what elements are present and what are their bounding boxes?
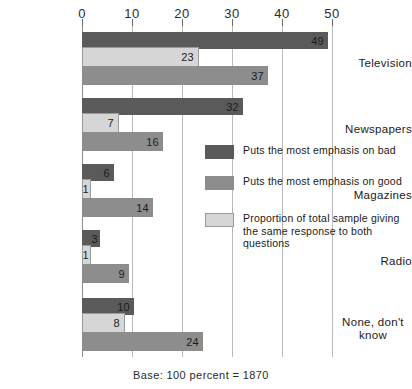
base-note: Base: 100 percent = 1870 (133, 369, 269, 381)
legend-item-good: Puts the most emphasis on good (205, 175, 410, 192)
legend-label-bad: Puts the most emphasis on bad (243, 144, 410, 157)
bar-value-television-good: 37 (251, 70, 264, 81)
bar-value-newspapers-bad: 32 (226, 101, 239, 112)
bar-value-newspapers-same: 7 (108, 118, 114, 129)
bar-value-magazines-bad: 6 (104, 167, 110, 178)
bar-value-radio-bad: 3 (92, 233, 98, 244)
bar-value-television-same: 23 (181, 52, 194, 63)
legend-item-same: Proportion of total sample giving the sa… (205, 212, 410, 250)
axis-tick-label-20: 20 (174, 6, 189, 21)
bar-television-good: 37 (82, 66, 268, 85)
legend-label-good: Puts the most emphasis on good (243, 175, 410, 188)
legend-swatch-same-icon (205, 213, 234, 227)
bar-newspapers-same: 7 (82, 113, 119, 133)
bar-value-radio-good: 9 (119, 268, 125, 279)
category-label-none-line1: None, don't (342, 316, 404, 328)
category-label-none: None, don't know (336, 316, 410, 342)
category-label-newspapers: Newspapers (338, 123, 412, 136)
bar-none-good: 24 (82, 332, 203, 351)
bar-value-magazines-good: 14 (136, 202, 149, 213)
bar-none-same: 8 (82, 313, 125, 333)
legend-swatch-bad-icon (205, 145, 234, 159)
legend-label-same: Proportion of total sample giving the sa… (243, 212, 410, 250)
bar-value-radio-same: 1 (83, 250, 89, 261)
axis-tick-label-10: 10 (124, 6, 139, 21)
bar-value-none-bad: 10 (117, 301, 130, 312)
bar-radio-good: 9 (82, 264, 129, 283)
bar-newspapers-good: 16 (82, 132, 163, 151)
legend: Puts the most emphasis on bad Puts the m… (205, 144, 410, 264)
axis-tick-label-30: 30 (224, 6, 239, 21)
category-label-television: Television (338, 57, 412, 70)
axis-tick-label-40: 40 (274, 6, 289, 21)
bar-radio-same: 1 (82, 245, 91, 265)
bar-value-newspapers-good: 16 (146, 136, 159, 147)
bar-value-none-same: 8 (114, 318, 120, 329)
axis-tick-label-50: 50 (324, 6, 339, 21)
bar-value-magazines-same: 1 (83, 184, 89, 195)
bar-value-none-good: 24 (186, 336, 199, 347)
bar-chart: 49 23 37 32 7 16 6 1 14 3 (0, 0, 412, 389)
bar-television-same: 23 (82, 47, 199, 67)
bar-value-television-bad: 49 (311, 35, 324, 46)
legend-item-bad: Puts the most emphasis on bad (205, 144, 410, 161)
bar-magazines-good: 14 (82, 198, 153, 217)
legend-swatch-good-icon (205, 176, 234, 190)
axis-tick-label-0: 0 (78, 6, 86, 21)
bar-magazines-same: 1 (82, 179, 91, 199)
category-label-none-line2: know (359, 329, 387, 341)
